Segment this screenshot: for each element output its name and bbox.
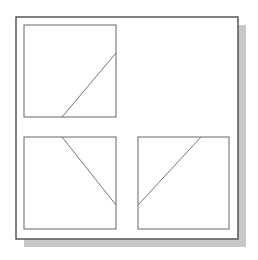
panel-bottom-right [138, 137, 229, 229]
panel-bottom-left [24, 137, 116, 229]
panel-box [138, 137, 229, 229]
panel-box [24, 137, 116, 229]
panel-box [24, 25, 116, 117]
diagram-canvas [0, 0, 258, 260]
panel-top-left [24, 25, 116, 117]
